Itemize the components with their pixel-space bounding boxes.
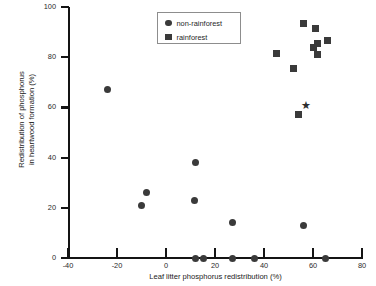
data-point-square bbox=[273, 50, 280, 57]
data-point-circle bbox=[229, 219, 236, 226]
x-tick bbox=[361, 248, 363, 258]
y-tick bbox=[61, 56, 69, 58]
x-tick bbox=[214, 248, 216, 258]
chart-legend: non-rainforest rainforest bbox=[157, 12, 241, 44]
y-tick bbox=[61, 207, 69, 209]
x-tick-label: -20 bbox=[102, 261, 132, 270]
data-point-circle bbox=[251, 255, 258, 262]
x-tick-label: 80 bbox=[347, 261, 376, 270]
y-tick bbox=[61, 106, 69, 108]
x-tick-label: -40 bbox=[53, 261, 83, 270]
y-tick-label: 100 bbox=[26, 2, 56, 11]
x-tick-label: 60 bbox=[298, 261, 328, 270]
y-tick-label: 0 bbox=[26, 253, 56, 262]
y-tick bbox=[61, 157, 69, 159]
data-point-circle bbox=[138, 202, 145, 209]
x-tick bbox=[116, 248, 118, 258]
data-point-circle bbox=[104, 86, 111, 93]
square-marker-icon bbox=[165, 34, 172, 41]
data-point-circle bbox=[143, 189, 150, 196]
data-point-circle bbox=[229, 255, 236, 262]
data-point-circle bbox=[191, 197, 198, 204]
data-point-circle bbox=[322, 255, 329, 262]
data-point-circle bbox=[300, 222, 307, 229]
x-tick-label: 20 bbox=[200, 261, 230, 270]
data-point-square bbox=[314, 51, 321, 58]
data-point-square bbox=[324, 37, 331, 44]
data-point-square bbox=[295, 111, 302, 118]
data-point-circle bbox=[200, 255, 207, 262]
y-tick bbox=[61, 6, 69, 8]
data-point-square bbox=[300, 20, 307, 27]
legend-label: rainforest bbox=[177, 33, 208, 42]
legend-label: non-rainforest bbox=[177, 19, 223, 28]
legend-item-rainforest: rainforest bbox=[165, 31, 240, 43]
data-point-square bbox=[314, 40, 321, 47]
scatter-chart: 020406080100 -40-20020406080 ★ Leaf litt… bbox=[0, 0, 376, 286]
y-axis-line bbox=[68, 7, 70, 259]
x-tick bbox=[67, 248, 69, 258]
x-axis-title: Leaf litter phosphorus redistribution (%… bbox=[68, 272, 363, 281]
data-point-square bbox=[290, 65, 297, 72]
data-point-circle bbox=[192, 159, 199, 166]
y-axis-title: Redistribution of phosphorus in heartwoo… bbox=[17, 15, 36, 225]
x-tick-label: 0 bbox=[151, 261, 181, 270]
x-tick bbox=[165, 248, 167, 258]
x-tick-label: 40 bbox=[249, 261, 279, 270]
x-tick bbox=[312, 248, 314, 258]
data-point-square bbox=[312, 25, 319, 32]
circle-marker-icon bbox=[165, 20, 172, 27]
x-tick bbox=[263, 248, 265, 258]
legend-item-non-rainforest: non-rainforest bbox=[165, 17, 240, 29]
data-point-circle bbox=[192, 255, 199, 262]
y-axis-title-line2: in heartwood formation (%) bbox=[26, 15, 36, 225]
y-axis-title-line1: Redistribution of phosphorus bbox=[17, 15, 27, 225]
